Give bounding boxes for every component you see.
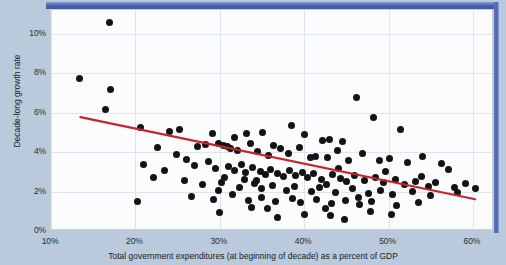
chart-figure: 0%2%4%6%8%10% 10%20%30%40%50%60% Decade-…: [0, 0, 506, 265]
trend-line: [51, 10, 492, 229]
y-tick-label: 2%: [0, 186, 46, 196]
x-tick-label: 10%: [25, 236, 75, 246]
y-tick-label: 4%: [0, 146, 46, 156]
scatter-plot-area: [50, 9, 493, 230]
x-tick-label: 40%: [278, 236, 328, 246]
x-tick-label: 60%: [447, 236, 497, 246]
y-tick-label: 8%: [0, 67, 46, 77]
x-axis-label: Total government expenditures (at beginn…: [0, 251, 506, 261]
decorative-top-bar: [46, 2, 498, 9]
y-tick-label: 6%: [0, 107, 46, 117]
x-tick-label: 20%: [109, 236, 159, 246]
x-tick-label: 30%: [194, 236, 244, 246]
y-tick-label: 10%: [0, 28, 46, 38]
y-axis-label: Decade-long growth rate: [12, 41, 22, 161]
y-tick-label: 0%: [0, 225, 46, 235]
x-tick-label: 50%: [363, 236, 413, 246]
decorative-right-bar: [494, 2, 499, 233]
